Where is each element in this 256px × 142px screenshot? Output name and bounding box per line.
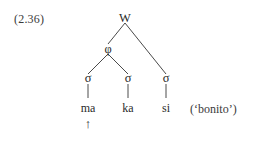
terminal-si: si — [152, 102, 180, 114]
branch-phi-to-sigma1 — [88, 54, 108, 74]
terminal-ma: ma — [74, 102, 102, 114]
example-number: (2.36) — [14, 12, 44, 26]
branch-w-to-sigma3 — [125, 23, 166, 74]
syllable-node-2: σ — [116, 72, 140, 84]
syllable-node-1: σ — [76, 72, 100, 84]
word-node: W — [113, 12, 137, 24]
terminal-ka: ka — [114, 102, 142, 114]
figure-container: (2.36) W φ σ σ σ ma ka si ↑ (‘bonito’) — [0, 0, 256, 142]
branch-w-to-phi — [108, 23, 125, 44]
phonological-phrase-node: φ — [96, 43, 120, 55]
syllable-node-3: σ — [154, 72, 178, 84]
gloss-text: (‘bonito’) — [190, 102, 237, 116]
stress-arrow-icon: ↑ — [74, 117, 102, 130]
